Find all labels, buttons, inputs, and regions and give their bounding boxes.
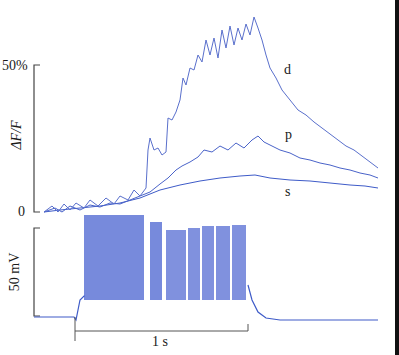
spike-burst-5 bbox=[202, 226, 214, 300]
trace-s bbox=[44, 175, 378, 212]
spike-burst-1 bbox=[84, 215, 144, 300]
voltage-scale-label: 50 mV bbox=[7, 253, 23, 292]
spike-burst-7 bbox=[232, 225, 246, 300]
spike-burst-6 bbox=[216, 226, 230, 300]
spike-burst-4 bbox=[188, 228, 200, 300]
edge-bar bbox=[395, 0, 399, 355]
df-axis bbox=[34, 65, 40, 212]
trace-p bbox=[44, 136, 378, 212]
spike-burst-2 bbox=[150, 222, 162, 300]
figure bbox=[0, 0, 399, 355]
trace-s-label: s bbox=[285, 184, 290, 200]
time-scale-label: 1 s bbox=[152, 334, 168, 350]
y-axis-label: ΔF/F bbox=[9, 120, 25, 149]
trace-d-label: d bbox=[284, 62, 291, 78]
voltage-repolarization bbox=[248, 285, 378, 320]
y-zero-label: 0 bbox=[18, 204, 25, 220]
trace-p-label: p bbox=[285, 127, 292, 143]
voltage-scale-bar bbox=[34, 228, 40, 316]
voltage-trace bbox=[34, 296, 85, 320]
spike-burst-3 bbox=[166, 230, 186, 300]
y-top-label: 50% bbox=[2, 58, 28, 74]
